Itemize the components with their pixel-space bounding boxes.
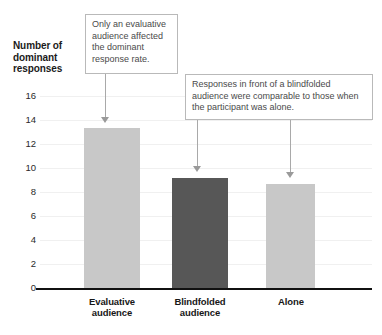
y-tick-label-2: 2 <box>14 259 36 269</box>
leader-line-evaluative <box>105 74 106 118</box>
arrowhead-alone <box>286 172 294 178</box>
bar-evaluative-audience <box>84 128 140 288</box>
y-tick-label-0: 0 <box>14 283 36 293</box>
y-tick-label-8: 8 <box>14 187 36 197</box>
y-tick-label-12: 12 <box>14 139 36 149</box>
x-axis-label-alone-line-1: Alone <box>251 296 331 307</box>
callout-evaluative: Only an evaluative audience affected the… <box>85 14 178 74</box>
y-tick-label-16: 16 <box>14 91 36 101</box>
y-tick-label-10: 10 <box>14 163 36 173</box>
x-axis-label-evaluative-line-1: Evaluative <box>72 296 152 307</box>
x-axis-label-blindfolded-audience: Blindfolded audience <box>160 296 240 318</box>
x-axis-label-blindfolded-line-1: Blindfolded <box>160 296 240 307</box>
bar-alone <box>266 184 315 288</box>
y-tick-label-6: 6 <box>14 211 36 221</box>
leader-line-alone <box>290 120 291 173</box>
y-axis-title: Number of dominant responses <box>13 40 93 75</box>
y-axis-title-line-2: dominant <box>13 52 93 64</box>
arrowhead-blindfolded <box>193 166 201 172</box>
x-axis-label-alone: Alone <box>251 296 331 307</box>
gridline-14 <box>40 120 372 121</box>
arrowhead-evaluative <box>101 117 109 123</box>
leader-line-blindfolded <box>197 120 198 167</box>
x-axis-line <box>36 288 372 290</box>
x-axis-label-evaluative-line-2: audience <box>72 307 152 318</box>
x-axis-label-blindfolded-line-2: audience <box>160 307 240 318</box>
callout-blindfolded-alone: Responses in front of a blindfolded audi… <box>185 74 373 120</box>
y-tick-label-14: 14 <box>14 115 36 125</box>
bar-chart: Number of dominant responses 16 14 12 10… <box>0 0 382 335</box>
bar-blindfolded-audience <box>172 178 228 288</box>
y-tick-label-4: 4 <box>14 235 36 245</box>
y-axis-title-line-3: responses <box>13 63 93 75</box>
y-axis-title-line-1: Number of <box>13 40 93 52</box>
x-axis-label-evaluative-audience: Evaluative audience <box>72 296 152 318</box>
